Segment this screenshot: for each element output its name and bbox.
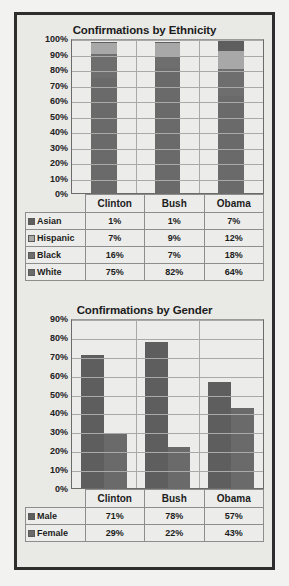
category-header-obama: Obama — [204, 195, 264, 213]
y-axis-tick-gender: 80% — [50, 333, 68, 343]
data-cell-male-clinton: 71% — [85, 508, 145, 525]
data-cell-black-obama: 18% — [204, 247, 264, 264]
bar-group-ethnicity — [136, 40, 200, 193]
y-axis-tick-ethnicity: 70% — [50, 81, 68, 91]
gridline — [72, 320, 263, 321]
y-axis-tick-ethnicity: 0% — [55, 189, 68, 199]
legend-item-hispanic: Hispanic — [26, 230, 86, 247]
y-axis-tick-gender: 40% — [50, 408, 68, 418]
y-axis-tick-gender: 50% — [50, 390, 68, 400]
data-cell-asian-bush: 1% — [145, 213, 205, 230]
y-axis-tick-gender: 90% — [50, 314, 68, 324]
bar-segment-black — [218, 69, 243, 96]
bar-cluster — [208, 320, 254, 488]
category-header-bush: Bush — [145, 195, 205, 213]
plot-wrapper-ethnicity: 0%10%20%30%40%50%60%70%80%90%100% — [25, 39, 264, 194]
legend-label: White — [37, 267, 62, 277]
category-header-bush: Bush — [145, 490, 205, 508]
table-row: Male71%78%57% — [26, 508, 264, 525]
plot-wrapper-gender: 0%10%20%30%40%50%60%70%80%90% — [25, 319, 264, 489]
legend-label: Female — [37, 528, 68, 538]
gridline — [72, 102, 263, 103]
data-table-ethnicity: ClintonBushObamaAsian1%1%7%Hispanic7%9%1… — [25, 194, 264, 281]
data-cell-hispanic-bush: 9% — [145, 230, 205, 247]
legend-label: Hispanic — [37, 233, 75, 243]
gridline — [72, 377, 263, 378]
y-axis-tick-gender: 60% — [50, 371, 68, 381]
bar-female — [231, 408, 254, 488]
page-root: Confirmations by Ethnicity 0%10%20%30%40… — [0, 0, 289, 586]
scan-frame: Confirmations by Ethnicity 0%10%20%30%40… — [14, 12, 275, 570]
bar-female — [104, 434, 127, 488]
data-cell-white-bush: 82% — [145, 264, 205, 281]
data-cell-female-clinton: 29% — [85, 525, 145, 542]
data-cell-female-obama: 43% — [204, 525, 264, 542]
data-cell-female-bush: 22% — [145, 525, 205, 542]
data-cell-male-bush: 78% — [145, 508, 205, 525]
category-divider — [199, 40, 200, 193]
data-cell-asian-obama: 7% — [204, 213, 264, 230]
gridline — [72, 433, 263, 434]
legend-label: Black — [37, 250, 61, 260]
bar-cluster — [145, 320, 191, 488]
y-axis-tick-gender: 0% — [55, 484, 68, 494]
legend-swatch-icon — [28, 513, 35, 520]
gridline — [72, 452, 263, 453]
y-axis-tick-ethnicity: 50% — [50, 112, 68, 122]
y-axis-tick-gender: 10% — [50, 465, 68, 475]
gridline — [72, 118, 263, 119]
data-cell-hispanic-clinton: 7% — [85, 230, 145, 247]
y-axis-tick-ethnicity: 100% — [45, 34, 68, 44]
data-cell-black-bush: 7% — [145, 247, 205, 264]
y-axis-tick-gender: 70% — [50, 352, 68, 362]
y-axis-gender: 0%10%20%30%40%50%60%70%80%90% — [25, 319, 71, 489]
category-divider — [136, 40, 137, 193]
y-axis-tick-ethnicity: 40% — [50, 127, 68, 137]
legend-label: Asian — [37, 216, 62, 226]
stacked-bar — [91, 40, 116, 193]
stacked-bar — [155, 40, 180, 193]
bar-segment-black — [155, 57, 180, 68]
bar-cluster — [81, 320, 127, 488]
bar-group-gender — [199, 320, 263, 488]
plot-area-gender — [71, 319, 264, 489]
legend-item-asian: Asian — [26, 213, 86, 230]
bar-group-gender — [72, 320, 136, 488]
gridline — [72, 414, 263, 415]
y-axis-tick-ethnicity: 80% — [50, 65, 68, 75]
chart-ethnicity: Confirmations by Ethnicity 0%10%20%30%40… — [17, 19, 272, 297]
legend-swatch-icon — [28, 269, 35, 276]
legend-item-white: White — [26, 264, 86, 281]
legend-swatch-icon — [28, 235, 35, 242]
plot-area-ethnicity — [71, 39, 264, 194]
bar-segment-hispanic — [91, 43, 116, 54]
y-axis-tick-gender: 20% — [50, 446, 68, 456]
category-header-clinton: Clinton — [85, 490, 145, 508]
data-cell-white-clinton: 75% — [85, 264, 145, 281]
table-row: Female29%22%43% — [26, 525, 264, 542]
category-divider — [136, 320, 137, 488]
legend-swatch-icon — [28, 252, 35, 259]
bar-segment-hispanic — [218, 51, 243, 69]
legend-swatch-icon — [28, 530, 35, 537]
data-table-gender: ClintonBushObamaMale71%78%57%Female29%22… — [25, 489, 264, 542]
bar-segment-white — [218, 96, 243, 193]
stacked-bar — [218, 40, 243, 193]
bars-layer-ethnicity — [72, 40, 263, 193]
category-divider — [199, 320, 200, 488]
category-header-clinton: Clinton — [85, 195, 145, 213]
gridline — [72, 358, 263, 359]
gridline — [72, 87, 263, 88]
y-axis-ethnicity: 0%10%20%30%40%50%60%70%80%90%100% — [25, 39, 71, 194]
table-row: Asian1%1%7% — [26, 213, 264, 230]
gridline — [72, 71, 263, 72]
legend-item-female: Female — [26, 525, 86, 542]
gridline — [72, 471, 263, 472]
gridline — [72, 339, 263, 340]
y-axis-tick-ethnicity: 30% — [50, 143, 68, 153]
legend-item-black: Black — [26, 247, 86, 264]
y-axis-tick-ethnicity: 20% — [50, 158, 68, 168]
table-row: Hispanic7%9%12% — [26, 230, 264, 247]
y-axis-tick-ethnicity: 90% — [50, 50, 68, 60]
gridline — [72, 164, 263, 165]
